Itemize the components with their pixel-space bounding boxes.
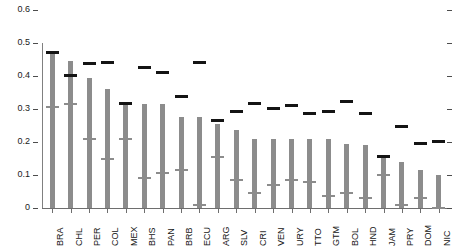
x-axis-tick-label: ECU (203, 227, 212, 246)
bar (436, 175, 441, 208)
upper-marker (248, 102, 261, 105)
upper-marker (64, 74, 77, 77)
y-axis-tick-label: 0 (25, 203, 30, 212)
right-axis-tick-mark (447, 10, 452, 11)
mid-marker (303, 181, 316, 183)
bar (252, 139, 257, 208)
upper-marker (414, 142, 427, 145)
x-axis-tick-label: MEX (130, 226, 139, 246)
y-axis-tick-mark (33, 43, 38, 44)
bar (307, 139, 312, 208)
upper-marker (377, 155, 390, 158)
mid-marker (267, 184, 280, 186)
bar (381, 157, 386, 208)
x-axis-tick-mark (52, 209, 53, 213)
bar (87, 78, 92, 208)
upper-marker (83, 62, 96, 65)
bar-chart: 0.60.50.40.30.20.10BRACHLPERCOLMEXBHSPAN… (0, 0, 462, 249)
bar (105, 89, 110, 208)
upper-marker (395, 125, 408, 128)
x-axis-tick-mark (420, 209, 421, 213)
bar (399, 162, 404, 208)
bar (234, 130, 239, 208)
x-axis-tick-mark (384, 209, 385, 213)
bar (142, 104, 147, 208)
bar (197, 117, 202, 208)
right-axis-tick-mark (447, 208, 452, 209)
y-axis-tick-label: 0.2 (17, 137, 30, 146)
x-axis-line (42, 208, 447, 209)
x-axis-tick-label: NIC (443, 231, 452, 247)
x-axis-tick-mark (273, 209, 274, 213)
mid-marker (175, 169, 188, 171)
x-axis-tick-label: PER (93, 227, 102, 246)
x-axis-tick-label: PRY (406, 228, 415, 246)
x-axis-tick-label: JAM (388, 228, 397, 246)
y-axis-tick-mark (33, 175, 38, 176)
upper-marker (322, 110, 335, 113)
mid-marker (119, 138, 132, 140)
x-axis-tick-mark (310, 209, 311, 213)
x-axis-tick-mark (107, 209, 108, 213)
y-axis-tick-mark (33, 10, 38, 11)
bar (160, 104, 165, 208)
mid-marker (138, 177, 151, 179)
y-axis-tick-mark (33, 208, 38, 209)
upper-marker (285, 104, 298, 107)
upper-marker (46, 51, 59, 54)
x-axis-tick-mark (328, 209, 329, 213)
bar (289, 139, 294, 208)
y-axis-tick-label: 0.6 (17, 5, 30, 14)
upper-marker (432, 140, 445, 143)
mid-marker (156, 172, 169, 174)
mid-marker (340, 192, 353, 194)
bar (418, 170, 423, 208)
x-axis-tick-mark (89, 209, 90, 213)
mid-marker (322, 195, 335, 197)
y-axis-tick-mark (33, 76, 38, 77)
x-axis-tick-mark (199, 209, 200, 213)
mid-marker (395, 204, 408, 206)
y-axis-line (42, 43, 43, 208)
mid-marker (83, 138, 96, 140)
x-axis-tick-mark (402, 209, 403, 213)
upper-marker (119, 102, 132, 105)
x-axis-tick-label: VEN (277, 227, 286, 246)
bar (68, 61, 73, 208)
upper-marker (156, 71, 169, 74)
upper-marker (359, 112, 372, 115)
upper-marker (193, 61, 206, 64)
mid-marker (211, 156, 224, 158)
y-axis-tick-label: 0.3 (17, 104, 30, 113)
x-axis-tick-label: ARG (222, 226, 231, 246)
x-axis-tick-mark (347, 209, 348, 213)
y-axis-tick-label: 0.4 (17, 71, 30, 80)
x-axis-tick-label: DOM (424, 225, 433, 246)
y-axis-tick-mark (33, 142, 38, 143)
x-axis-tick-label: TTO (314, 228, 323, 246)
y-axis-tick-mark (33, 109, 38, 110)
y-axis-tick-label: 0.1 (17, 170, 30, 179)
x-axis-tick-label: COL (111, 227, 120, 246)
upper-marker (101, 61, 114, 64)
x-axis-tick-label: BRA (56, 227, 65, 246)
right-axis-tick-mark (447, 109, 452, 110)
right-axis-tick-mark (447, 175, 452, 176)
upper-marker (230, 110, 243, 113)
bar (326, 139, 331, 208)
bar (179, 117, 184, 208)
upper-marker (267, 107, 280, 110)
plot-area: 0.60.50.40.30.20.10BRACHLPERCOLMEXBHSPAN… (0, 0, 462, 249)
x-axis-tick-label: PAN (167, 228, 176, 246)
bar (215, 124, 220, 208)
mid-marker (248, 192, 261, 194)
x-axis-tick-label: CHL (75, 228, 84, 246)
mid-marker (101, 158, 114, 160)
x-axis-tick-mark (218, 209, 219, 213)
x-axis-tick-mark (181, 209, 182, 213)
y-axis-tick-label: 0.5 (17, 38, 30, 47)
x-axis-tick-label: URY (296, 227, 305, 246)
upper-marker (211, 119, 224, 122)
mid-marker (64, 103, 77, 105)
mid-marker (359, 197, 372, 199)
